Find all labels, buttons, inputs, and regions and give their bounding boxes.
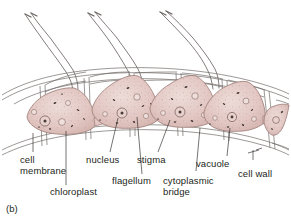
label-cell-membrane-line1: cell <box>20 154 35 165</box>
label-cell-wall: cell wall <box>238 168 272 179</box>
figure-panel-b: cell membrane chloroplast nucleus flagel… <box>0 0 291 224</box>
label-cytoplasmic-bridge-line1: cytoplasmic <box>163 175 214 186</box>
label-vacuole: vacuole <box>196 158 229 169</box>
label-flagellum: flagellum <box>112 175 151 186</box>
label-cytoplasmic-bridge-line2: bridge <box>163 186 190 197</box>
alga-cell-5 <box>264 104 289 135</box>
label-nucleus: nucleus <box>86 154 119 165</box>
label-stigma: stigma <box>137 154 166 165</box>
label-cytoplasmic-bridge: cytoplasmic bridge <box>163 175 233 197</box>
panel-letter: (b) <box>6 203 18 214</box>
label-cell-membrane: cell membrane <box>20 154 86 176</box>
cell-sheet-diagram <box>0 0 291 224</box>
label-cell-membrane-line2: membrane <box>20 165 66 176</box>
label-chloroplast: chloroplast <box>50 186 97 197</box>
flagellum-pair-1 <box>25 13 78 90</box>
